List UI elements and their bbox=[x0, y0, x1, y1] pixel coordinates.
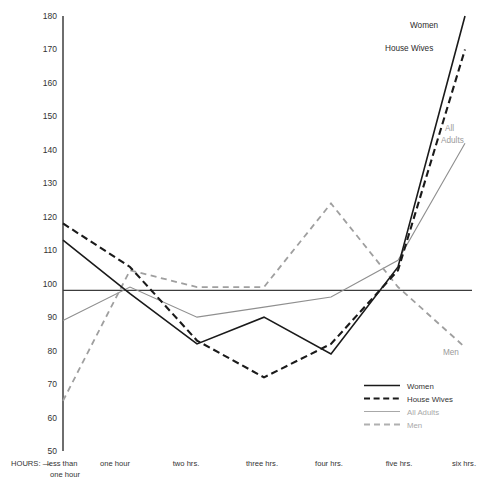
series-line-men bbox=[63, 203, 465, 400]
x-axis-tick-labels: HOURS: — less than one hour one hour two… bbox=[11, 459, 476, 479]
chart-canvas: 180 170 160 150 140 130 120 110 100 90 8… bbox=[0, 0, 484, 490]
y-tick-160: 160 bbox=[43, 78, 57, 88]
legend-label-house-wives: House Wives bbox=[407, 395, 453, 404]
x-tick-six-hrs: six hrs. bbox=[452, 459, 476, 468]
x-tick-less-than-one-hour-line2: one hour bbox=[50, 470, 80, 479]
y-tick-100: 100 bbox=[43, 279, 57, 289]
x-tick-three-hrs: three hrs. bbox=[246, 459, 278, 468]
line-chart: 180 170 160 150 140 130 120 110 100 90 8… bbox=[0, 0, 484, 490]
y-tick-130: 130 bbox=[43, 178, 57, 188]
y-tick-120: 120 bbox=[43, 212, 57, 222]
series-line-house-wives bbox=[63, 49, 465, 377]
x-tick-five-hrs: five hrs. bbox=[386, 459, 413, 468]
annotation-all-adults-line2: Adults bbox=[441, 136, 464, 145]
y-tick-110: 110 bbox=[43, 245, 57, 255]
x-tick-less-than-one-hour-line1: less than bbox=[47, 459, 77, 468]
annotation-all-adults-line1: All bbox=[445, 124, 454, 133]
y-tick-150: 150 bbox=[43, 111, 57, 121]
x-tick-one-hour: one hour bbox=[100, 459, 130, 468]
legend-label-women: Women bbox=[407, 382, 434, 391]
x-tick-two-hrs: two hrs. bbox=[173, 459, 200, 468]
chart-legend: Women House Wives All Adults Men bbox=[364, 382, 453, 430]
series-line-women bbox=[63, 16, 465, 354]
annotation-women: Women bbox=[410, 21, 439, 30]
y-tick-170: 170 bbox=[43, 44, 57, 54]
annotation-men: Men bbox=[443, 348, 459, 357]
y-tick-60: 60 bbox=[48, 413, 58, 423]
legend-label-men: Men bbox=[407, 421, 422, 430]
x-tick-four-hrs: four hrs. bbox=[315, 459, 343, 468]
annotation-house-wives: House Wives bbox=[385, 44, 433, 53]
y-tick-90: 90 bbox=[48, 312, 58, 322]
legend-label-all-adults: All Adults bbox=[407, 408, 439, 417]
y-tick-180: 180 bbox=[43, 11, 57, 21]
y-tick-140: 140 bbox=[43, 145, 57, 155]
y-axis-tick-labels: 180 170 160 150 140 130 120 110 100 90 8… bbox=[43, 11, 57, 456]
y-tick-70: 70 bbox=[48, 379, 58, 389]
y-tick-80: 80 bbox=[48, 346, 58, 356]
y-tick-50: 50 bbox=[48, 446, 58, 456]
x-axis-caption: HOURS: — bbox=[11, 459, 51, 468]
